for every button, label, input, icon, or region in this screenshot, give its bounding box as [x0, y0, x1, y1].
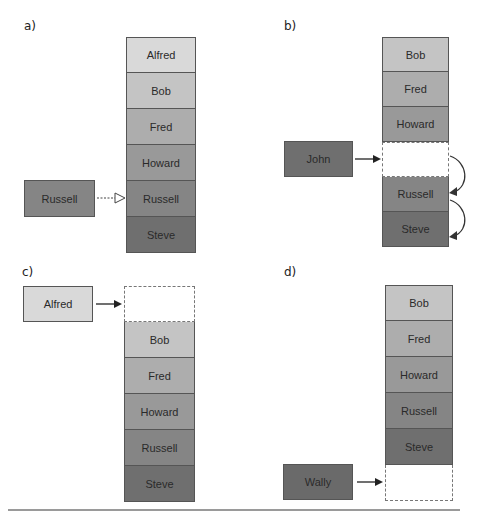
slot-a-5: Steve [126, 217, 196, 253]
incoming-item-b: John [284, 141, 353, 177]
slot-d-2: Howard [385, 357, 453, 393]
stack-d: Bob Fred Howard Russell Steve [385, 285, 453, 501]
slot-a-2: Fred [126, 109, 196, 145]
slot-a-1: Bob [126, 73, 196, 109]
slot-c-3: Howard [124, 394, 195, 430]
insert-arrow-icon [94, 298, 124, 310]
slot-a-3: Howard [126, 145, 196, 181]
slot-a-0: Alfred [126, 37, 196, 73]
panel-label-d: d) [284, 265, 296, 279]
slot-c-1: Bob [124, 322, 195, 358]
empty-slot-d [385, 465, 453, 501]
slot-c-5: Steve [124, 466, 195, 502]
stack-c: Bob Fred Howard Russell Steve [124, 286, 195, 502]
incoming-item-d: Wally [283, 464, 353, 500]
panel-label-a: a) [24, 19, 36, 33]
panel-label-c: c) [22, 265, 33, 279]
stack-a: Alfred Bob Fred Howard Russell Steve [126, 37, 196, 253]
stack-b: Bob Fred Howard Russell Steve [382, 37, 449, 247]
slot-d-1: Fred [385, 321, 453, 357]
slot-b-1: Fred [382, 72, 449, 107]
incoming-item-c: Alfred [23, 286, 93, 322]
insert-arrow-icon [353, 153, 383, 165]
slot-b-5: Steve [382, 212, 449, 247]
empty-slot-c [124, 286, 195, 322]
insert-arrow-icon [355, 476, 385, 488]
slot-d-0: Bob [385, 285, 453, 321]
slot-d-3: Russell [385, 393, 453, 429]
panel-label-b: b) [284, 19, 296, 33]
slot-b-4: Russell [382, 177, 449, 212]
slot-b-2: Howard [382, 107, 449, 142]
slot-c-4: Russell [124, 430, 195, 466]
slot-a-4: Russell [126, 181, 196, 217]
separator-line [8, 509, 460, 511]
slot-b-0: Bob [382, 37, 449, 72]
incoming-item-a: Russell [24, 180, 95, 217]
slot-c-2: Fred [124, 358, 195, 394]
empty-slot-b [382, 142, 449, 177]
slot-d-4: Steve [385, 429, 453, 465]
shift-down-arrow-icon [446, 152, 476, 242]
dotted-arrow-icon [95, 190, 127, 206]
